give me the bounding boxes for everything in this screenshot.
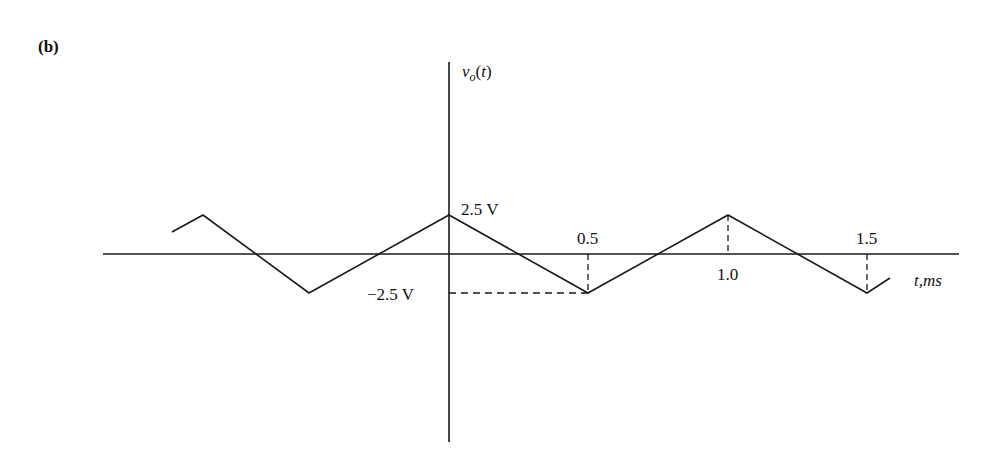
tick-label-0-5: 0.5 [577,229,598,248]
x-axis-label: t,ms [914,271,942,290]
panel-label: (b) [38,37,59,56]
peak-label: 2.5 V [461,200,499,219]
waveform-figure: (b) vo(t) 2.5 V −2.5 V 0.5 1.0 1.5 t,ms [0,0,982,457]
tick-label-1-5: 1.5 [856,229,877,248]
trough-label: −2.5 V [367,285,415,304]
tick-label-1-0: 1.0 [717,265,738,284]
y-axis-label: vo(t) [462,62,492,84]
